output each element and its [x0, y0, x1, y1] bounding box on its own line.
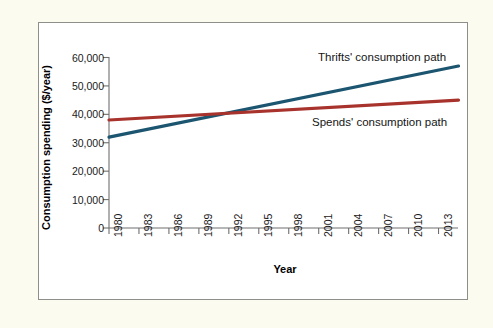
x-tick-label: 1998	[293, 214, 304, 237]
x-tick-label: 1986	[173, 214, 184, 237]
x-tick-label: 2004	[353, 214, 364, 237]
x-tick-label: 2013	[443, 214, 454, 237]
series-annotation-thrifts: Thrifts' consumption path	[318, 52, 446, 64]
y-tick-label: 0	[52, 223, 104, 234]
y-tick-label: 30,000	[52, 138, 104, 149]
axes-group	[109, 57, 458, 228]
figure-root: 010,00020,00030,00040,00050,00060,000 19…	[0, 0, 493, 328]
y-tick-label: 10,000	[52, 195, 104, 206]
x-axis-title: Year	[250, 263, 320, 275]
x-tick-label: 2001	[323, 214, 334, 237]
series-annotation-spends: Spends' consumption path	[312, 117, 447, 129]
y-tick-label: 50,000	[52, 81, 104, 92]
y-tick-label: 60,000	[52, 53, 104, 64]
y-axis-title: Consumption spending ($/year)	[41, 40, 52, 230]
x-tick-label: 2010	[413, 214, 424, 237]
x-tick-label: 1983	[143, 214, 154, 237]
x-tick-label: 1989	[203, 214, 214, 237]
x-tick-label: 1980	[113, 214, 124, 237]
y-tick-label: 40,000	[52, 109, 104, 120]
x-tick-label: 1995	[263, 214, 274, 237]
y-tick-label: 20,000	[52, 166, 104, 177]
x-tick-label: 2007	[383, 214, 394, 237]
chart-plot-area	[0, 0, 493, 328]
x-tick-label: 1992	[233, 214, 244, 237]
